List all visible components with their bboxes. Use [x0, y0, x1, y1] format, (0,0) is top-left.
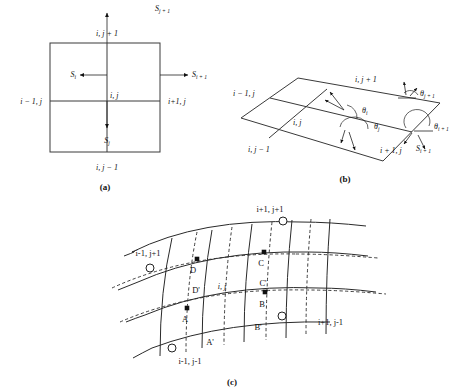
panel-c-label-i-plus-1-j-plus-1: i+1, j+1 — [256, 204, 283, 214]
panel-c-label-center: i, j — [218, 282, 227, 291]
panel-c-label-D: D — [190, 265, 196, 275]
panel-c-marker-B — [263, 290, 267, 294]
panel-c-node-i-minus-1-j-plus-1 — [146, 264, 154, 272]
panel-c-marker-D — [195, 257, 199, 261]
panel-c-label-B: B — [259, 299, 265, 309]
panel-c-label-C: C — [258, 258, 264, 268]
panel-c-curve-i-mid-left — [202, 230, 212, 348]
panel-c-dash-vertical-right — [306, 219, 311, 336]
panel-c-node-i-plus-1-j-plus-1 — [279, 217, 287, 225]
panel-c: D C D' C' A B A' B' i, j i-1, j+1 i+1, j… — [0, 0, 463, 389]
panel-c-label-i-minus-1-j-minus-1: i-1, j-1 — [178, 356, 201, 366]
panel-c-curve-i-mid-right — [286, 220, 292, 338]
panel-c-node-i-plus-1-j-minus-1 — [278, 312, 286, 320]
panel-c-tag: (c) — [227, 377, 237, 387]
panel-c-label-A: A — [182, 314, 189, 324]
panel-c-label-C-prime: C' — [259, 278, 267, 288]
panel-c-label-i-plus-1-j-minus-1: i+1, j-1 — [318, 317, 343, 327]
panel-c-curve-i-left — [160, 238, 172, 356]
panel-c-curve-j-bottom — [152, 322, 330, 348]
panel-c-dash-vertical-mid-right — [266, 222, 272, 340]
panel-c-marker-C — [262, 250, 266, 254]
panel-c-node-i-minus-1-j-minus-1 — [168, 344, 176, 352]
figure-container: i, j + 1 i, j − 1 i − 1, j i+1, j i, j S… — [0, 0, 463, 389]
panel-c-marker-A — [185, 306, 189, 310]
panel-c-curve-j-mid-head — [118, 282, 138, 290]
panel-c-curve-j-top-head — [124, 252, 135, 257]
panel-c-label-D-prime: D' — [192, 285, 200, 295]
panel-c-curve-j-mid-lower — [145, 288, 318, 315]
panel-c-dash-horizontal-upper — [112, 254, 296, 288]
panel-c-label-B-prime: B' — [254, 322, 262, 332]
panel-c-curve-i-mid — [244, 224, 252, 342]
panel-c-curve-j-lower-head — [126, 315, 145, 322]
panel-c-curve-j-mid-upper — [138, 252, 308, 282]
panel-c-label-i-minus-1-j-plus-1: i-1, j+1 — [135, 248, 160, 258]
panel-c-label-A-prime: A' — [206, 337, 214, 347]
panel-c-curve-j-top-tail — [300, 222, 366, 226]
panel-c-curve-j-bottom-head — [133, 348, 152, 358]
